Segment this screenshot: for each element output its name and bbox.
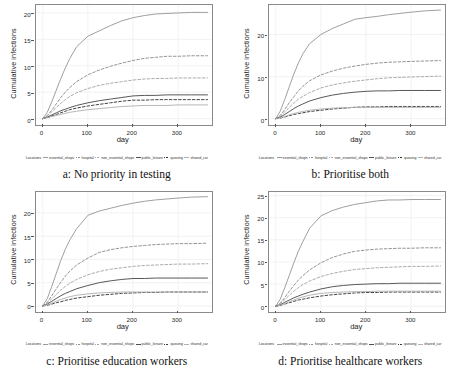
legend-item-public-leisure: public_leisure bbox=[136, 156, 163, 160]
legend-item-essential-shops: essential_shops bbox=[277, 156, 308, 160]
legend-label: queuing bbox=[170, 342, 182, 346]
series-line-queuing bbox=[276, 292, 441, 306]
x-tick-mark bbox=[275, 311, 276, 314]
y-axis-label: Cumulative infections bbox=[240, 0, 252, 126]
y-tick-label: 0 bbox=[27, 303, 30, 310]
legend-label: queuing bbox=[170, 156, 182, 160]
x-tick-mark bbox=[177, 124, 178, 127]
x-axis-label: day bbox=[35, 322, 211, 331]
series-line-shared-car bbox=[276, 291, 441, 306]
y-tick-label: 10 bbox=[257, 259, 264, 266]
y-tick-label: 10 bbox=[24, 63, 31, 70]
legend-item-essential-shops: essential_shops bbox=[43, 156, 74, 160]
y-tick-mark bbox=[265, 240, 268, 241]
y-tick-mark bbox=[31, 93, 34, 94]
legend-item-non-essential-shops: non_essential_shops bbox=[95, 156, 134, 160]
x-axis-label: day bbox=[268, 135, 444, 144]
y-tick-mark bbox=[265, 218, 268, 219]
legend-item-non-essential-shops: non_essential_shops bbox=[95, 342, 134, 346]
y-tick-mark bbox=[31, 259, 34, 260]
series-line-queuing bbox=[43, 292, 208, 306]
y-tick-label: 20 bbox=[24, 10, 31, 17]
series-line-hospital bbox=[43, 56, 208, 119]
panel-caption-c: c: Prioritise education workers bbox=[46, 355, 187, 367]
y-tick-label: 0 bbox=[27, 116, 30, 123]
series-line-public-leisure bbox=[276, 283, 441, 306]
legend-label: shared_car bbox=[424, 156, 442, 160]
series-line-non-essential-shops bbox=[276, 265, 441, 305]
legend-label: non_essential_shops bbox=[335, 156, 368, 160]
x-tick-mark bbox=[177, 311, 178, 314]
legend-swatch-public-leisure bbox=[136, 157, 141, 158]
y-tick-mark bbox=[31, 13, 34, 14]
legend-item-essential-shops: essential_shops bbox=[277, 342, 308, 346]
chart-legend: Locationsessential_shopshospitalnon_esse… bbox=[245, 340, 455, 349]
legend-item-public-leisure: public_leisure bbox=[369, 342, 396, 346]
legend-title: Locations bbox=[25, 342, 40, 346]
series-line-queuing bbox=[43, 100, 208, 119]
legend-label: hospital bbox=[82, 156, 94, 160]
y-tick-mark bbox=[31, 236, 34, 237]
y-axis-label-text: Cumulative infections bbox=[8, 28, 17, 98]
chart-panel-b: Cumulative infections010200100200300dayL… bbox=[234, 0, 467, 187]
legend-swatch-queuing bbox=[164, 344, 169, 345]
legend-swatch-non-essential-shops bbox=[329, 344, 334, 345]
y-axis-label-text: Cumulative infections bbox=[242, 28, 251, 98]
x-axis-label: day bbox=[35, 135, 211, 144]
series-line-queuing bbox=[276, 106, 441, 118]
legend-item-shared-car: shared_car bbox=[184, 156, 208, 160]
legend-label: non_essential_shops bbox=[335, 342, 368, 346]
grid-lines bbox=[269, 192, 445, 312]
y-tick-label: 15 bbox=[257, 237, 264, 244]
y-tick-mark bbox=[31, 213, 34, 214]
plot-frame-c bbox=[35, 191, 213, 313]
plot-area-a: Cumulative infections051015200100200300d… bbox=[9, 0, 225, 152]
legend-swatch-queuing bbox=[398, 344, 403, 345]
legend-swatch-hospital bbox=[76, 344, 81, 345]
panel-caption-d: d: Prioritise healthcare workers bbox=[278, 355, 422, 367]
x-tick-mark bbox=[42, 124, 43, 127]
series-line-essential-shops bbox=[276, 199, 441, 306]
y-axis-ticks: 05101520 bbox=[19, 6, 33, 122]
plot-area-b: Cumulative infections010200100200300day bbox=[242, 0, 458, 152]
legend-title: Locations bbox=[259, 342, 274, 346]
chart-panel-c: Cumulative infections051015200100200300d… bbox=[0, 187, 234, 373]
y-axis-label-text: Cumulative infections bbox=[8, 214, 17, 284]
y-axis-label: Cumulative infections bbox=[7, 187, 19, 313]
plot-area-c: Cumulative infections051015200100200300d… bbox=[9, 187, 225, 339]
legend-swatch-hospital bbox=[76, 157, 81, 158]
y-tick-label: 5 bbox=[27, 280, 30, 287]
y-tick-mark bbox=[31, 119, 34, 120]
legend-label: non_essential_shops bbox=[101, 156, 134, 160]
y-tick-label: 5 bbox=[27, 90, 30, 97]
legend-item-queuing: queuing bbox=[398, 156, 416, 160]
legend-swatch-shared-car bbox=[418, 344, 423, 345]
legend-swatch-shared-car bbox=[184, 157, 189, 158]
y-tick-mark bbox=[265, 306, 268, 307]
legend-label: shared_car bbox=[190, 342, 208, 346]
chart-legend: Locationsessential_shopshospitalnon_esse… bbox=[12, 340, 222, 349]
y-tick-mark bbox=[265, 284, 268, 285]
x-tick-mark bbox=[410, 124, 411, 127]
chart-legend: Locationsessential_shopshospitalnon_esse… bbox=[12, 153, 222, 162]
legend-label: queuing bbox=[404, 342, 416, 346]
x-tick-mark bbox=[320, 124, 321, 127]
legend-item-hospital: hospital bbox=[309, 156, 327, 160]
legend-label: hospital bbox=[82, 342, 94, 346]
series-line-hospital bbox=[43, 243, 208, 306]
series-line-public-leisure bbox=[276, 90, 441, 118]
legend-label: public_leisure bbox=[375, 342, 396, 346]
plot-frame-a bbox=[35, 4, 213, 126]
y-tick-mark bbox=[265, 119, 268, 120]
legend-item-non-essential-shops: non_essential_shops bbox=[329, 156, 368, 160]
x-tick-mark bbox=[275, 124, 276, 127]
x-tick-mark bbox=[320, 311, 321, 314]
series-line-essential-shops bbox=[276, 10, 441, 119]
x-tick-mark bbox=[410, 311, 411, 314]
legend-label: essential_shops bbox=[283, 342, 308, 346]
y-tick-mark bbox=[31, 40, 34, 41]
legend-swatch-queuing bbox=[398, 157, 403, 158]
x-tick-mark bbox=[87, 311, 88, 314]
chart-panel-d: Cumulative infections0510152025010020030… bbox=[234, 187, 467, 373]
x-tick-mark bbox=[42, 311, 43, 314]
